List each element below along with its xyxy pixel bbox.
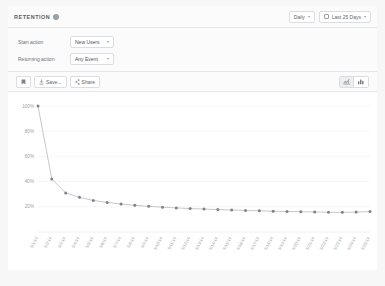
line-chart-toggle[interactable]	[339, 76, 354, 88]
svg-text:5/25/14: 5/25/14	[360, 236, 371, 251]
title-group: RETENTION	[14, 14, 59, 20]
retention-chart-card: 100%80%60%40%20% 5/1/145/2/145/3/145/4/1…	[8, 92, 377, 270]
svg-text:5/4/14: 5/4/14	[70, 236, 80, 249]
svg-text:5/3/14: 5/3/14	[57, 236, 67, 249]
svg-text:5/9/14: 5/9/14	[140, 236, 150, 249]
start-action-label: Start action	[18, 39, 70, 45]
svg-text:5/2/14: 5/2/14	[43, 236, 53, 249]
svg-text:5/13/14: 5/13/14	[194, 236, 205, 251]
filter-panel: Start action New Users ▾ Returning actio…	[8, 28, 377, 72]
line-chart-icon	[343, 78, 351, 85]
chart-toolbar: Save... Share	[8, 72, 377, 92]
chart-xtick-labels: 5/1/145/2/145/3/145/4/145/5/145/6/145/7/…	[29, 236, 371, 251]
svg-text:5/19/14: 5/19/14	[277, 236, 288, 251]
svg-text:20%: 20%	[25, 204, 34, 209]
download-icon	[39, 79, 44, 85]
svg-text:60%: 60%	[25, 154, 34, 159]
bar-chart-toggle[interactable]	[354, 76, 369, 88]
retention-data-points	[37, 105, 372, 214]
date-range-dropdown[interactable]: Last 25 Days ▾	[319, 11, 371, 23]
chart-type-toggle	[339, 76, 369, 88]
svg-text:5/22/14: 5/22/14	[318, 236, 329, 251]
interval-label: Daily	[294, 14, 305, 20]
returning-action-label: Returning action	[18, 56, 70, 62]
start-action-select[interactable]: New Users ▾	[70, 36, 114, 48]
svg-text:80%: 80%	[25, 129, 34, 134]
returning-action-value: Any Event	[75, 56, 98, 62]
chart-gridlines	[38, 106, 370, 232]
calendar-icon	[324, 14, 329, 19]
retention-report-page: RETENTION Daily ▾ Last 25 Days ▾ Start a…	[0, 0, 385, 286]
svg-text:5/8/14: 5/8/14	[126, 236, 136, 249]
svg-text:5/18/14: 5/18/14	[263, 236, 274, 251]
svg-text:5/16/14: 5/16/14	[235, 236, 246, 251]
svg-text:5/17/14: 5/17/14	[249, 236, 260, 251]
bar-chart-icon	[357, 78, 365, 85]
start-action-value: New Users	[75, 39, 99, 45]
returning-action-row: Returning action Any Event ▾	[18, 51, 367, 66]
date-range-label: Last 25 Days	[332, 14, 361, 20]
retention-line-chart: 100%80%60%40%20% 5/1/145/2/145/3/145/4/1…	[8, 92, 377, 270]
header-controls: Daily ▾ Last 25 Days ▾	[289, 11, 371, 23]
interval-dropdown[interactable]: Daily ▾	[289, 11, 315, 23]
chevron-down-icon: ▾	[364, 15, 366, 19]
bookmark-icon	[21, 79, 26, 85]
svg-text:5/7/14: 5/7/14	[112, 236, 122, 249]
toolbar-actions: Save... Share	[16, 76, 100, 88]
svg-text:40%: 40%	[25, 179, 34, 184]
start-action-row: Start action New Users ▾	[18, 34, 367, 49]
svg-text:5/24/14: 5/24/14	[346, 236, 357, 251]
bookmark-button[interactable]	[16, 76, 31, 88]
save-label: Save...	[46, 79, 62, 85]
question-circle-icon[interactable]	[53, 14, 59, 20]
save-button[interactable]: Save...	[34, 76, 67, 88]
svg-text:5/10/14: 5/10/14	[152, 236, 163, 251]
svg-text:5/1/14: 5/1/14	[29, 236, 39, 249]
svg-text:5/15/14: 5/15/14	[222, 236, 233, 251]
share-icon	[75, 79, 80, 85]
svg-text:5/12/14: 5/12/14	[180, 236, 191, 251]
chevron-down-icon: ▾	[107, 57, 109, 61]
chevron-down-icon: ▾	[308, 15, 310, 19]
report-header: RETENTION Daily ▾ Last 25 Days ▾	[8, 6, 377, 28]
returning-action-select[interactable]: Any Event ▾	[70, 53, 114, 65]
svg-text:5/14/14: 5/14/14	[208, 236, 219, 251]
svg-text:5/23/14: 5/23/14	[332, 236, 343, 251]
retention-curve-line	[38, 106, 370, 212]
page-title: RETENTION	[14, 14, 50, 20]
svg-text:5/5/14: 5/5/14	[84, 236, 94, 249]
svg-text:5/21/14: 5/21/14	[305, 236, 316, 251]
svg-text:5/11/14: 5/11/14	[166, 236, 177, 251]
svg-text:5/6/14: 5/6/14	[98, 236, 108, 249]
chart-ytick-labels: 100%80%60%40%20%	[22, 104, 34, 210]
share-button[interactable]: Share	[70, 76, 100, 88]
share-label: Share	[82, 79, 95, 85]
svg-text:5/20/14: 5/20/14	[291, 236, 302, 251]
svg-text:100%: 100%	[22, 104, 34, 109]
chevron-down-icon: ▾	[107, 40, 109, 44]
